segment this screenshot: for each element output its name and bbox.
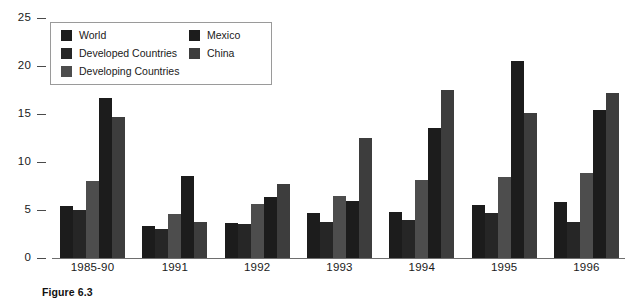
- y-axis-tick: 0: [0, 251, 46, 265]
- bar-group: [472, 18, 537, 258]
- bar-developing-countries-1993: [333, 196, 346, 258]
- bar-developed-countries-1993: [320, 222, 333, 258]
- legend-column-right: Mexico China: [189, 30, 240, 77]
- y-axis-tick: 5: [0, 203, 46, 217]
- bar-mexico-1996: [593, 110, 606, 258]
- bar-developing-countries-1992: [251, 204, 264, 258]
- figure-caption: Figure 6.3: [42, 286, 93, 298]
- legend-label-world: World: [79, 30, 106, 41]
- x-axis-label: 1994: [389, 261, 454, 281]
- x-axis-labels: 1985-90199119921993199419951996: [52, 261, 625, 281]
- bar-developed-countries-1985-90: [73, 210, 86, 258]
- y-axis-tick-mark: [37, 210, 46, 211]
- bar-developed-countries-1991: [155, 229, 168, 258]
- bar-china-1985-90: [112, 117, 125, 258]
- x-axis-label: 1992: [225, 261, 290, 281]
- bar-developing-countries-1994: [415, 180, 428, 258]
- bar-world-1993: [307, 213, 320, 258]
- legend-item-developing-countries: Developing Countries: [61, 66, 189, 77]
- legend-label-developing-countries: Developing Countries: [79, 66, 179, 77]
- legend-swatch-icon-mexico: [189, 30, 200, 41]
- bar-mexico-1991: [181, 176, 194, 258]
- bar-china-1991: [194, 222, 207, 258]
- chart-legend: World Developed Countries Developing Cou…: [50, 22, 272, 85]
- y-axis-tick-label: 10: [18, 156, 31, 168]
- bar-developing-countries-1991: [168, 214, 181, 258]
- y-axis-tick-label: 20: [18, 60, 31, 72]
- legend-item-world: World: [61, 30, 189, 41]
- legend-swatch-icon-developing-countries: [61, 66, 72, 77]
- legend-swatch-icon-china: [189, 48, 200, 59]
- bar-world-1985-90: [60, 206, 73, 258]
- y-axis: 2520151050: [0, 0, 52, 276]
- bar-developing-countries-1995: [498, 177, 511, 258]
- y-axis-tick: 15: [0, 107, 46, 121]
- y-axis-tick-mark: [37, 162, 46, 163]
- bar-world-1996: [554, 202, 567, 258]
- bar-china-1992: [277, 184, 290, 258]
- bar-developed-countries-1994: [402, 220, 415, 258]
- legend-item-china: China: [189, 48, 240, 59]
- legend-swatch-icon-world: [61, 30, 72, 41]
- bar-group: [389, 18, 454, 258]
- x-axis-label: 1995: [472, 261, 537, 281]
- bar-world-1995: [472, 205, 485, 258]
- legend-label-mexico: Mexico: [207, 30, 240, 41]
- bar-china-1993: [359, 138, 372, 258]
- y-axis-tick-label: 0: [24, 252, 31, 264]
- y-axis-tick-label: 15: [18, 108, 31, 120]
- bar-group: [554, 18, 619, 258]
- bar-mexico-1993: [346, 201, 359, 258]
- figure-container: 2520151050 1985-901991199219931994199519…: [0, 0, 633, 306]
- bar-developing-countries-1985-90: [86, 181, 99, 258]
- y-axis-tick-mark: [37, 66, 46, 67]
- y-axis-tick-mark: [37, 18, 46, 19]
- legend-item-mexico: Mexico: [189, 30, 240, 41]
- bar-mexico-1992: [264, 197, 277, 258]
- bar-mexico-1995: [511, 61, 524, 258]
- y-axis-tick-label: 25: [18, 12, 31, 24]
- bar-china-1996: [606, 93, 619, 258]
- y-axis-tick: 20: [0, 59, 46, 73]
- bar-developed-countries-1995: [485, 213, 498, 258]
- y-axis-tick: 10: [0, 155, 46, 169]
- legend-swatch-icon-developed-countries: [61, 48, 72, 59]
- bar-developing-countries-1996: [580, 173, 593, 258]
- bar-world-1991: [142, 226, 155, 258]
- bar-developed-countries-1996: [567, 222, 580, 258]
- x-axis-label: 1993: [307, 261, 372, 281]
- x-axis-baseline: [52, 258, 625, 259]
- x-axis-label: 1985-90: [60, 261, 125, 281]
- y-axis-tick: 25: [0, 11, 46, 25]
- bar-mexico-1985-90: [99, 98, 112, 258]
- x-axis-label: 1996: [554, 261, 619, 281]
- x-axis-label: 1991: [142, 261, 207, 281]
- bar-world-1994: [389, 212, 402, 258]
- bar-developed-countries-1992: [238, 224, 251, 258]
- legend-item-developed-countries: Developed Countries: [61, 48, 189, 59]
- legend-column-left: World Developed Countries Developing Cou…: [61, 30, 189, 77]
- bar-world-1992: [225, 223, 238, 258]
- legend-label-china: China: [207, 48, 234, 59]
- y-axis-tick-label: 5: [24, 204, 31, 216]
- bar-china-1994: [441, 90, 454, 258]
- bar-mexico-1994: [428, 128, 441, 258]
- y-axis-tick-mark: [37, 258, 46, 259]
- y-axis-tick-mark: [37, 114, 46, 115]
- bar-group: [307, 18, 372, 258]
- bar-china-1995: [524, 113, 537, 258]
- legend-label-developed-countries: Developed Countries: [79, 48, 177, 59]
